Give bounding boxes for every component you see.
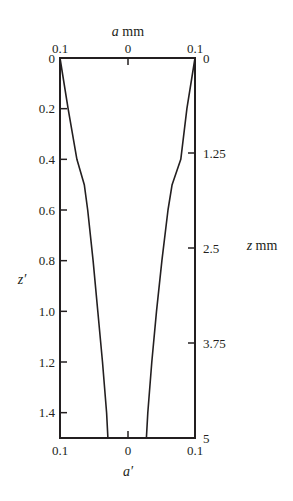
bottom-tick-center: 0 bbox=[125, 443, 132, 458]
bottom-axis-title: a′ bbox=[123, 464, 134, 479]
right-tick-label: 3.75 bbox=[203, 336, 226, 351]
right-tick-label: 5 bbox=[203, 431, 210, 446]
top-axis-title: a mm bbox=[112, 24, 144, 39]
left-tick-label: 0.8 bbox=[39, 253, 55, 268]
left-tick-label: 1.4 bbox=[39, 405, 56, 420]
right-tick-label: 0 bbox=[203, 51, 210, 66]
left-axis-title: z′ bbox=[17, 272, 27, 287]
left-axis-ticks: 00.20.40.60.81.01.21.4 bbox=[39, 51, 67, 421]
left-tick-label: 1.2 bbox=[39, 355, 55, 370]
left-tick-label: 0.2 bbox=[39, 101, 55, 116]
tapered-profile-chart: 00.20.40.60.81.01.21.4 01.252.53.755 0.1… bbox=[0, 0, 293, 501]
right-axis-ticks: 01.252.53.755 bbox=[188, 51, 226, 446]
plot-frame bbox=[60, 58, 195, 438]
profile-curves bbox=[60, 58, 195, 438]
right-tick-label: 1.25 bbox=[203, 146, 226, 161]
right-profile-curve bbox=[146, 58, 195, 438]
left-profile-curve bbox=[60, 58, 108, 438]
left-tick-label: 0.4 bbox=[39, 152, 56, 167]
bottom-tick-left: 0.1 bbox=[52, 443, 68, 458]
left-tick-label: 1.0 bbox=[39, 304, 55, 319]
right-axis-title: z mm bbox=[246, 238, 278, 253]
top-tick-left: 0.1 bbox=[52, 41, 68, 56]
top-tick-right: 0.1 bbox=[187, 41, 203, 56]
top-tick-center: 0 bbox=[125, 41, 132, 56]
right-tick-label: 2.5 bbox=[203, 241, 219, 256]
left-tick-label: 0.6 bbox=[39, 203, 56, 218]
bottom-tick-right: 0.1 bbox=[187, 443, 203, 458]
